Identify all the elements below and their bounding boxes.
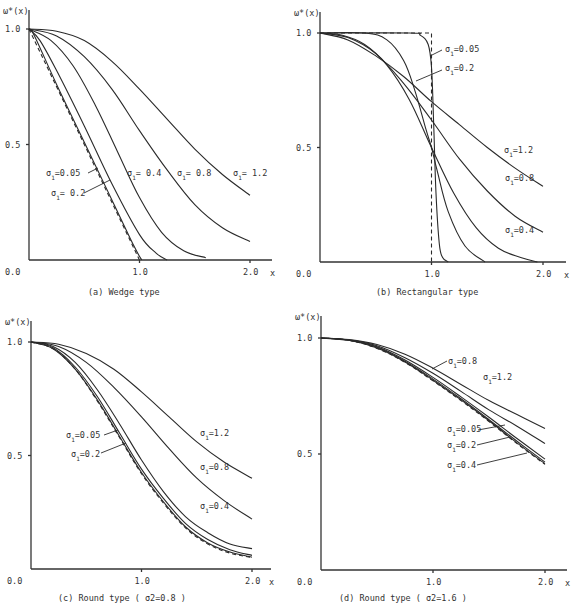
series-annotation: σ1=0.05: [66, 430, 100, 443]
series-annotation: σ1= 0.2: [51, 188, 85, 201]
series-annotation: σ1= 0.4: [127, 168, 161, 181]
y-tick-label: 0.5: [5, 140, 20, 150]
series-annotation: σ1=0.05: [447, 424, 481, 437]
series-annotation: σ1=0.4: [200, 501, 229, 514]
chart-panel-b: ω*(x)x0.51.00.01.02.0σ1=0.05σ1=0.2σ1=1.2…: [294, 8, 569, 297]
series-ideal: [320, 33, 432, 262]
series-annotation: σ1=0.2: [447, 440, 476, 453]
x-tick-label: 2.0: [243, 267, 258, 277]
y-axis-label: ω*(x): [295, 312, 321, 322]
y-tick-label: 1.0: [7, 337, 22, 347]
series--1-0-05: [320, 33, 448, 262]
series--1-0-05: [321, 338, 545, 464]
series--1-0-05: [31, 342, 252, 557]
series--1-0-2: [31, 342, 252, 555]
x-axis-label: x: [565, 578, 570, 588]
y-tick-label: 1.0: [5, 24, 20, 34]
y-tick-label: 0.5: [297, 449, 312, 459]
x-tick-label: 0.0: [297, 577, 312, 587]
chart-panel-a: ω*(x)x0.51.00.01.02.0σ1=0.05σ1= 0.2σ1= 0…: [3, 6, 275, 297]
series-annotation: σ1=0.4: [505, 225, 534, 238]
y-axis-label: ω*(x): [5, 317, 31, 327]
x-axis-label: x: [564, 270, 569, 280]
x-tick-label: 1.0: [135, 576, 150, 586]
series-annotation: σ1=0.05: [46, 168, 80, 181]
series-ideal: [31, 342, 252, 558]
series-annotation: σ1=0.2: [445, 63, 474, 76]
x-tick-label: 1.0: [426, 577, 441, 587]
x-tick-label: 2.0: [536, 269, 551, 279]
chart-panel-d: ω*(x)x0.51.00.01.02.0σ1=0.8σ1=1.2σ1=0.05…: [295, 312, 570, 603]
series-annotation: σ1=1.2: [483, 372, 512, 385]
series--1-0-8: [29, 29, 250, 242]
annotation-leader: [477, 437, 510, 445]
annotation-leader: [101, 443, 126, 453]
x-tick-label: 1.0: [133, 267, 148, 277]
y-axis-label: ω*(x): [3, 6, 29, 16]
y-tick-label: 0.5: [296, 143, 311, 153]
annotation-leader: [432, 361, 447, 369]
x-tick-label: 0.0: [296, 269, 311, 279]
panel-caption: (d) Round type ( σ2=1.6 ): [339, 593, 467, 603]
series-annotation: σ1=1.2: [504, 145, 533, 158]
series--1-0-8: [321, 338, 545, 444]
y-tick-label: 1.0: [296, 28, 311, 38]
y-tick-label: 1.0: [297, 333, 312, 343]
figure-canvas: ω*(x)x0.51.00.01.02.0σ1=0.05σ1= 0.2σ1= 0…: [0, 0, 578, 614]
series-annotation: σ1=0.2: [71, 449, 100, 462]
y-axis-label: ω*(x): [294, 8, 320, 18]
panel-caption: (c) Round type ( σ2=0.8 ): [58, 593, 186, 603]
series-annotation: σ1=0.05: [445, 44, 479, 57]
x-tick-label: 1.0: [425, 269, 440, 279]
annotation-leader: [477, 453, 527, 465]
series-annotation: σ1=0.4: [447, 460, 476, 473]
series-annotation: σ1=0.8: [505, 173, 534, 186]
series--1-0-2: [321, 338, 545, 462]
series-annotation: σ1=1.2: [200, 428, 229, 441]
panel-caption: (a) Wedge type: [88, 287, 160, 297]
x-axis-label: x: [270, 268, 275, 278]
series-ideal: [321, 338, 545, 464]
x-tick-label: 2.0: [245, 576, 260, 586]
chart-panel-c: ω*(x)x0.51.00.01.02.0σ1=0.05σ1=0.2σ1=1.2…: [5, 317, 274, 603]
series-ideal: [29, 29, 140, 260]
series--1-1-2: [31, 342, 252, 478]
series--1-0-4: [31, 342, 252, 549]
panel-caption: (b) Rectangular type: [376, 287, 478, 297]
series--1-0-4: [29, 29, 206, 258]
y-tick-label: 0.5: [7, 451, 22, 461]
x-tick-label: 0.0: [5, 267, 20, 277]
series--1-0-2: [29, 29, 167, 260]
series-annotation: σ1= 1.2: [233, 168, 267, 181]
series--1-0-4: [321, 338, 545, 459]
annotation-leader: [416, 70, 442, 81]
x-tick-label: 0.0: [7, 576, 22, 586]
series--1-1-2: [321, 338, 545, 429]
x-tick-label: 2.0: [538, 577, 553, 587]
series-annotation: σ1=0.8: [448, 356, 477, 369]
series-annotation: σ1= 0.8: [177, 168, 211, 181]
series-annotation: σ1=0.8: [200, 462, 229, 475]
x-axis-label: x: [269, 577, 274, 587]
